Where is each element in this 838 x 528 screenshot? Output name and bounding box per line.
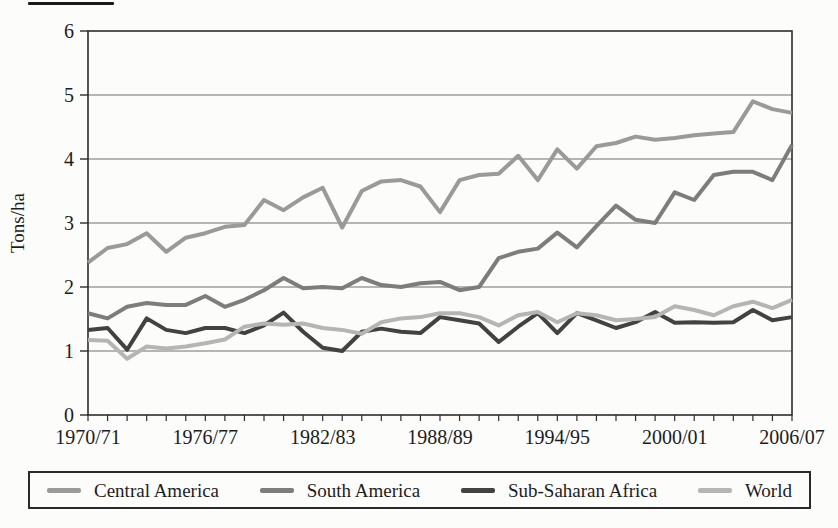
legend-item-central-america: Central America	[47, 481, 219, 500]
y-tick-label-1: 1	[64, 340, 74, 362]
x-tick-label-4: 1994/95	[525, 426, 591, 448]
legend-label-south-america: South America	[307, 481, 420, 500]
y-tick-label-3: 3	[64, 212, 74, 234]
y-tick-label-0: 0	[64, 404, 74, 426]
legend-label-central-america: Central America	[94, 481, 219, 500]
x-tick-label-3: 1988/89	[407, 426, 473, 448]
y-tick-label-4: 4	[64, 148, 74, 170]
y-tick-label-5: 5	[64, 84, 74, 106]
x-tick-label-0: 1970/71	[55, 426, 121, 448]
y-axis-title: Tons/ha	[7, 192, 28, 252]
x-tick-label-1: 1976/77	[173, 426, 239, 448]
legend-swatch-sub-saharan-africa	[461, 488, 495, 493]
legend-swatch-world	[698, 488, 732, 493]
legend-item-south-america: South America	[260, 481, 420, 500]
yield-line-chart: 01234561970/711976/771982/831988/891994/…	[0, 0, 838, 466]
legend-swatch-central-america	[47, 488, 81, 493]
scanned-chart-page: 01234561970/711976/771982/831988/891994/…	[0, 0, 838, 528]
x-tick-label-2: 1982/83	[290, 426, 356, 448]
series-line-south-america	[88, 145, 792, 319]
legend-item-world: World	[698, 481, 792, 500]
y-tick-label-2: 2	[64, 276, 74, 298]
x-tick-label-6: 2006/07	[759, 426, 825, 448]
legend-label-world: World	[745, 481, 792, 500]
legend-swatch-south-america	[260, 488, 294, 493]
x-tick-label-5: 2000/01	[642, 426, 708, 448]
legend-label-sub-saharan-africa: Sub-Saharan Africa	[508, 481, 657, 500]
y-tick-label-6: 6	[64, 20, 74, 42]
series-line-central-america	[88, 101, 792, 262]
legend-item-sub-saharan-africa: Sub-Saharan Africa	[461, 481, 657, 500]
chart-legend: Central AmericaSouth AmericaSub-Saharan …	[28, 471, 811, 509]
